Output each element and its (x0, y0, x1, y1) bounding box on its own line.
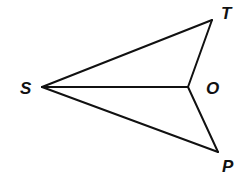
label-s: S (20, 79, 32, 98)
segment-st (42, 20, 212, 87)
geometry-diagram: S T O P (0, 0, 244, 181)
edges (42, 20, 218, 152)
label-t: T (221, 4, 233, 23)
segment-to (188, 20, 212, 87)
label-o: O (206, 79, 219, 98)
label-p: P (222, 157, 234, 176)
